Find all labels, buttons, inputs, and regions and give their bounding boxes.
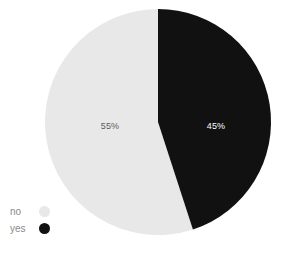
legend-label-yes: yes [10,220,32,237]
pie-slice-label-no: 55% [101,121,120,131]
legend-label-no: no [10,203,32,220]
legend-item-no[interactable]: no [10,203,70,220]
pie-chart: 55% 45% no yes [0,0,286,253]
pie-slice-label-yes: 45% [207,121,226,131]
legend-item-yes[interactable]: yes [10,220,70,237]
circle-swatch-icon [39,223,50,234]
chart-legend: no yes [10,203,70,237]
circle-swatch-icon [39,206,50,217]
